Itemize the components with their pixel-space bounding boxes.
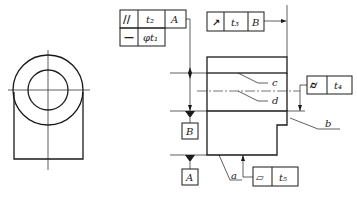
svg-text:a: a [231, 170, 237, 181]
cylindricity-symbol: ⌭ [309, 80, 318, 91]
datum-a-label: A [185, 172, 193, 183]
straightness-tolerance: φt₁ [143, 32, 158, 43]
leader-b: b [290, 118, 340, 129]
leader-d: d [238, 91, 278, 106]
runout-datum: B [251, 17, 259, 28]
leader-c: c [238, 73, 278, 88]
top-hatched-wall [207, 57, 287, 73]
datum-b-label: B [185, 126, 193, 137]
bottom-hatched-body [207, 111, 287, 155]
left-view [8, 50, 90, 170]
flatness-tolerance: t₅ [279, 172, 287, 183]
frame-parallelism: // t₂ A — φt₁ [120, 10, 192, 111]
flatness-symbol: ▱ [256, 172, 264, 183]
svg-text:d: d [272, 95, 278, 106]
parallelism-leader [186, 19, 190, 73]
svg-text:b: b [325, 118, 331, 129]
frame-runout: ↗ t₃ B [207, 12, 287, 31]
parallelism-datum: A [170, 14, 178, 25]
straightness-symbol: — [124, 32, 134, 43]
datum-b: B [182, 111, 198, 139]
leader-a: a [219, 155, 242, 181]
parallelism-tolerance: t₂ [146, 14, 154, 25]
frame-flatness: ▱ t₅ [241, 155, 298, 186]
runout-tolerance: t₃ [231, 17, 239, 28]
runout-symbol: ↗ [212, 17, 220, 28]
parallelism-symbol: // [123, 14, 131, 25]
flatness-leader [243, 155, 253, 177]
cylindricity-tolerance: t₄ [334, 80, 342, 91]
drawing-canvas: // t₂ A — φt₁ ↗ t₃ B ⌭ t₄ ▱ t₅ [0, 0, 357, 197]
frame-cylindricity: ⌭ t₄ [287, 76, 352, 111]
svg-text:c: c [272, 77, 278, 88]
datum-a: A [182, 155, 198, 185]
